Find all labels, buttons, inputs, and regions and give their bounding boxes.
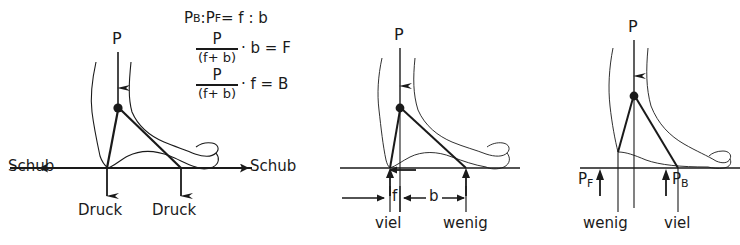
- middle-dimension-label-b: b: [429, 189, 439, 204]
- middle-dimension-label-f: f: [392, 189, 397, 204]
- right-reaction-pb-base: P: [672, 170, 681, 188]
- left-pressure-label-front: Druck: [78, 203, 122, 218]
- formula-ratio-rest: = f : b: [221, 9, 268, 27]
- formula-rear-denominator: (f+ b): [196, 86, 238, 100]
- middle-amount-label-front: viel: [375, 216, 401, 231]
- left-pressure-label-rear: Druck: [152, 203, 196, 218]
- right-reaction-pf-base: P: [578, 170, 587, 188]
- right-reaction-label-pf: PF: [578, 172, 593, 189]
- panel-right-art: [580, 40, 740, 212]
- formula-front-rest: · b = F: [241, 39, 291, 57]
- right-amount-label-front: wenig: [583, 216, 628, 231]
- right-reaction-pb-subscript: B: [681, 177, 689, 190]
- left-shear-label-left: Schub: [8, 159, 54, 174]
- right-amount-label-rear: viel: [664, 216, 690, 231]
- formula-line-ratio: PB : PF = f : b: [184, 6, 334, 30]
- formula-fraction-rear: P (f+ b): [196, 68, 238, 99]
- left-shear-label-right: Schub: [250, 159, 296, 174]
- foot-load-figure: PB : PF = f : b P (f+ b) · b = F P (f+ b…: [0, 0, 740, 245]
- left-load-label-p: P: [112, 31, 122, 47]
- right-reaction-pf-subscript: F: [587, 177, 593, 190]
- middle-load-label-p: P: [394, 27, 404, 43]
- formula-line-rear: P (f+ b) · f = B: [184, 66, 334, 102]
- right-load-label-p: P: [628, 19, 638, 35]
- formula-pb-subscript: B: [193, 12, 201, 25]
- formula-pb: P: [184, 9, 193, 27]
- formula-rear-numerator: P: [206, 68, 227, 84]
- formula-pf: P: [206, 9, 215, 27]
- right-reaction-label-pb: PB: [672, 172, 689, 189]
- formula-rear-rest: · f = B: [241, 75, 288, 93]
- formula-fraction-front: P (f+ b): [196, 32, 238, 63]
- formula-line-front: P (f+ b) · b = F: [184, 30, 334, 66]
- formula-front-denominator: (f+ b): [196, 50, 238, 64]
- formula-block: PB : PF = f : b P (f+ b) · b = F P (f+ b…: [184, 6, 334, 102]
- formula-front-numerator: P: [206, 32, 227, 48]
- middle-amount-label-rear: wenig: [443, 216, 488, 231]
